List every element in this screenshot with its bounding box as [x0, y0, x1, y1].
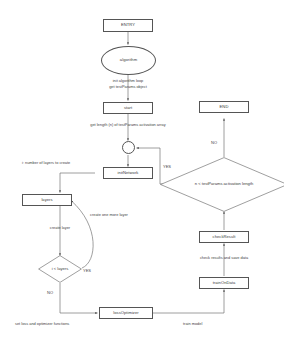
node-condition-i[interactable]: i < layers — [38, 255, 82, 283]
branch-label-condition-i-no: NO — [47, 290, 53, 295]
edge-label-create-one-more-layer: create one more layer — [90, 213, 128, 218]
node-loss-optimizer-label: lossOptimizer — [113, 311, 138, 316]
node-condition-i-label: i < layers — [38, 255, 82, 283]
node-init-network-label: initNetwork — [118, 171, 139, 176]
node-loss-optimizer[interactable]: lossOptimizer — [99, 307, 153, 319]
branch-label-condition-n-no: NO — [211, 140, 217, 145]
edge-label-check-results-and-save-data: check results and save data — [200, 256, 248, 261]
node-end-label: END — [220, 105, 229, 110]
flowchart-canvas: ENTRY algorithm init algorithm loop get … — [0, 0, 284, 341]
node-train-on-data[interactable]: trainOnData — [199, 277, 249, 289]
branch-label-condition-n-yes: YES — [163, 164, 171, 169]
edge-label-layers-to-condition: create layer — [50, 226, 70, 231]
edge-label-set-loss-and-optimizer: set loss and optimizer functions — [15, 322, 69, 327]
edge-label-algorithm-to-start-line2: get testParams object — [109, 85, 147, 90]
node-condition-n-label: n < testParams activation length — [160, 157, 284, 212]
node-condition-n[interactable]: n < testParams activation length — [160, 157, 284, 212]
node-start-label: start — [124, 106, 132, 111]
node-layers-label: layers — [41, 198, 52, 203]
node-entry-label: ENTRY — [121, 23, 135, 28]
node-check-result-label: checkResult — [213, 235, 236, 240]
branch-label-condition-i-yes: YES — [83, 268, 91, 273]
node-entry[interactable]: ENTRY — [103, 19, 153, 32]
edge-label-init-to-layers: i: number of layers to create — [22, 161, 70, 166]
node-junction[interactable] — [122, 141, 135, 154]
edge-label-train-model: train model — [183, 322, 202, 327]
node-train-on-data-label: trainOnData — [213, 281, 236, 286]
node-end[interactable]: END — [199, 101, 249, 113]
node-layers[interactable]: layers — [22, 194, 72, 206]
node-algorithm-label: algorithm — [120, 58, 137, 63]
edge-label-start-to-junction: get length (n) of testParams activation … — [90, 123, 165, 128]
node-init-network[interactable]: initNetwork — [103, 167, 153, 179]
node-start[interactable]: start — [103, 102, 153, 114]
node-algorithm[interactable]: algorithm — [101, 46, 156, 75]
node-check-result[interactable]: checkResult — [199, 231, 249, 243]
